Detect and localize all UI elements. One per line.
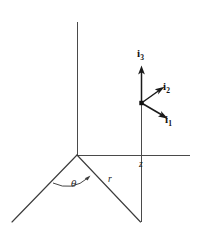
vector-origin-dot (139, 101, 143, 105)
vector-i2-line (142, 91, 160, 104)
label-i1: i1 (165, 114, 172, 125)
coordinate-diagram-figure: i3 i2 i1 z r θ (0, 0, 197, 227)
label-z: z (139, 160, 143, 170)
vector-i1-line (142, 103, 163, 115)
reference-ray-line (12, 155, 77, 222)
radial-ray-line (77, 155, 141, 222)
label-i3: i3 (137, 48, 144, 59)
label-i2: i2 (163, 81, 170, 92)
label-r: r (108, 175, 112, 185)
label-theta: θ (71, 180, 76, 189)
